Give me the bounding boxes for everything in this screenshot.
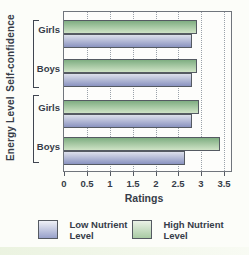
legend-label-high-line2: Level bbox=[163, 230, 223, 241]
x-tick-label-0: 0 bbox=[54, 178, 74, 189]
legend-label-low-nutrient: Low Nutrient Level bbox=[69, 219, 127, 241]
bar-low-nutrient-level-self-confidence-boys bbox=[64, 73, 192, 87]
category-label-energy-level-girls: Girls bbox=[34, 102, 60, 113]
x-tick-3.5 bbox=[224, 172, 225, 176]
legend-label-low-line1: Low Nutrient bbox=[69, 219, 127, 230]
bar-high-nutrient-level-self-confidence-girls bbox=[64, 20, 197, 34]
x-tick-label-1.5: 1.5 bbox=[123, 178, 143, 189]
bar-low-nutrient-level-energy-level-girls bbox=[64, 114, 192, 128]
gridline-3.5 bbox=[224, 12, 225, 171]
legend-item-low-nutrient: Low Nutrient Level bbox=[38, 219, 128, 241]
x-tick-1.5 bbox=[133, 172, 134, 176]
x-tick-0.5 bbox=[87, 172, 88, 176]
axis-group-label-energy-level: Energy Level bbox=[5, 97, 19, 161]
category-label-self-confidence-girls: Girls bbox=[34, 24, 60, 35]
x-tick-label-2.5: 2.5 bbox=[168, 178, 188, 189]
x-tick-3 bbox=[201, 172, 202, 176]
bar-low-nutrient-level-self-confidence-girls bbox=[64, 34, 192, 48]
page-tint bbox=[0, 247, 249, 255]
category-label-self-confidence-boys: Boys bbox=[34, 63, 60, 74]
legend-item-high-nutrient: High Nutrient Level bbox=[132, 219, 224, 241]
bar-high-nutrient-level-self-confidence-boys bbox=[64, 59, 197, 73]
legend-swatch-low-nutrient bbox=[38, 220, 58, 239]
x-tick-label-0.5: 0.5 bbox=[77, 178, 97, 189]
x-tick-label-2: 2 bbox=[146, 178, 166, 189]
x-axis-title: Ratings bbox=[114, 192, 174, 204]
legend: Low Nutrient Level High Nutrient Level bbox=[0, 219, 249, 249]
axis-group-label-self-confidence: Self-confidence bbox=[5, 14, 19, 92]
figure: Self-confidence Energy Level Ratings Low… bbox=[0, 0, 249, 255]
x-tick-1 bbox=[110, 172, 111, 176]
x-tick-2 bbox=[156, 172, 157, 176]
legend-swatch-high-nutrient bbox=[132, 220, 152, 239]
x-tick-label-1: 1 bbox=[100, 178, 120, 189]
bar-high-nutrient-level-energy-level-girls bbox=[64, 100, 199, 114]
x-tick-label-3.5: 3.5 bbox=[214, 178, 234, 189]
bar-low-nutrient-level-energy-level-boys bbox=[64, 151, 185, 165]
x-tick-label-3: 3 bbox=[191, 178, 211, 189]
legend-label-high-line1: High Nutrient bbox=[163, 219, 223, 230]
legend-label-low-line2: Level bbox=[69, 230, 127, 241]
legend-label-high-nutrient: High Nutrient Level bbox=[163, 219, 223, 241]
x-tick-2.5 bbox=[178, 172, 179, 176]
plot-area bbox=[63, 11, 232, 172]
category-label-energy-level-boys: Boys bbox=[34, 141, 60, 152]
bar-high-nutrient-level-energy-level-boys bbox=[64, 137, 220, 151]
x-tick-0 bbox=[64, 172, 65, 176]
